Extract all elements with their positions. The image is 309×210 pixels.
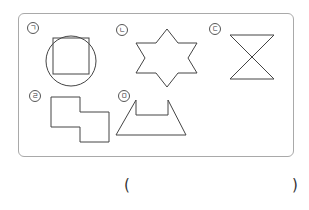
answer-open-paren: ( [124, 176, 130, 194]
shape-notched-trapezoid [116, 100, 186, 135]
shape-steps [51, 97, 109, 142]
shape-circle-square [46, 36, 96, 86]
shape-star [136, 29, 197, 87]
shapes-canvas [0, 0, 309, 210]
answer-close-paren: ) [292, 176, 298, 194]
shape-hourglass [230, 35, 274, 79]
